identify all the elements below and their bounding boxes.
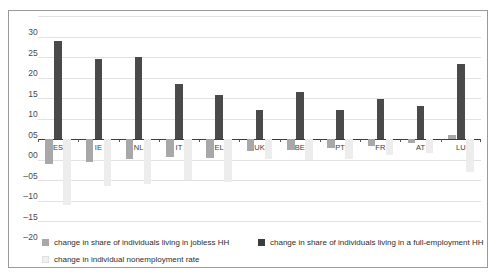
x-axis-category-label: BE [295,143,305,152]
x-axis-tick [441,139,442,142]
x-axis-category-label: UK [254,143,264,152]
bar-group: BE [280,16,320,221]
bar-group: FR [360,16,400,221]
y-axis-tick-label: 25 [28,48,38,58]
bar-jobless [247,139,255,151]
bar-fullemp [296,92,304,139]
bar-group: NL [119,16,159,221]
chart-screenshot: 30252015100500–05–10–15–20 ESIENLITELUKB… [0,0,497,280]
x-axis-category-label: AT [416,143,425,152]
bar-jobless [86,139,94,162]
legend-label-jobless: change in share of individuals living in… [54,238,229,247]
bar-jobless [287,139,295,150]
legend-label-nonemployment: change in individual nonemployment rate [54,255,199,264]
x-axis-category-label: IE [95,143,102,152]
bar-group: IT [159,16,199,221]
plot-area: ESIENLITELUKBEPTFRATLU [38,16,481,221]
legend-item-full-employment: change in share of individuals living in… [258,238,483,247]
y-axis-tick-label: 20 [28,68,38,78]
bar-fullemp [256,110,264,139]
bar-jobless [408,139,416,143]
bar-jobless [45,139,53,164]
x-axis-tick [78,139,79,142]
y-axis-tick-label: –05 [23,171,38,181]
y-axis-tick-label: 05 [28,130,38,140]
bar-group: PT [320,16,360,221]
legend-item-jobless: change in share of individuals living in… [42,238,229,247]
y-axis-tick-label: –15 [23,212,38,222]
x-axis-category-label: NL [134,143,144,152]
x-axis-tick [119,139,120,142]
bar-nonemp [386,139,394,155]
x-axis-category-label: EL [215,143,224,152]
x-axis-category-label: PT [335,143,345,152]
bar-fullemp [377,99,385,139]
bar-nonemp [63,139,71,205]
bar-jobless [327,139,335,148]
bar-fullemp [417,106,425,139]
bar-nonemp [265,139,273,159]
y-axis-tick-label: 30 [28,27,38,37]
x-axis-tick [38,139,39,142]
bar-fullemp [175,84,183,139]
x-axis-tick [360,139,361,142]
bar-fullemp [135,57,143,139]
y-axis-tick-label: –20 [23,232,38,242]
bar-fullemp [95,59,103,139]
legend-item-nonemployment: change in individual nonemployment rate [42,255,199,264]
bar-jobless [448,135,456,139]
bar-nonemp [104,139,112,186]
bar-jobless [166,139,174,157]
bar-nonemp [224,139,232,182]
bar-group: IE [78,16,118,221]
y-axis-tick-label: –10 [23,191,38,201]
bar-fullemp [336,110,344,139]
bar-group: UK [239,16,279,221]
legend-swatch-nonemployment-icon [42,256,49,263]
bar-jobless [368,139,376,146]
x-axis-tick [320,139,321,142]
x-axis-tick [400,139,401,142]
y-axis-tick-label: 10 [28,109,38,119]
bar-fullemp [215,95,223,139]
x-axis-category-label: FR [375,143,385,152]
x-axis-tick [159,139,160,142]
bar-group: ES [38,16,78,221]
x-axis-tick [239,139,240,142]
x-axis-category-label: IT [176,143,183,152]
x-axis-end-tick [480,139,481,142]
bar-fullemp [457,64,465,139]
bar-nonemp [184,139,192,180]
y-axis-tick-label: 15 [28,89,38,99]
gridline [38,221,481,222]
x-axis-category-label: LU [456,143,466,152]
bar-nonemp [466,139,474,172]
bar-group: LU [441,16,481,221]
bar-nonemp [144,139,152,184]
bar-nonemp [426,139,434,153]
bar-nonemp [345,139,353,159]
x-axis-category-label: ES [53,143,63,152]
legend-swatch-full-employment-icon [258,239,265,246]
bar-group: EL [199,16,239,221]
y-axis-tick-label: 00 [28,150,38,160]
y-axis-labels: 30252015100500–05–10–15–20 [8,16,40,221]
bar-nonemp [305,139,313,160]
bar-fullemp [54,41,62,139]
legend-label-full-employment: change in share of individuals living in… [270,238,483,247]
x-axis-tick [280,139,281,142]
bar-group: AT [400,16,440,221]
legend-swatch-jobless-icon [42,239,49,246]
bar-series-container: ESIENLITELUKBEPTFRATLU [38,16,481,221]
bar-jobless [126,139,134,159]
bar-jobless [206,139,214,158]
x-axis-tick [199,139,200,142]
